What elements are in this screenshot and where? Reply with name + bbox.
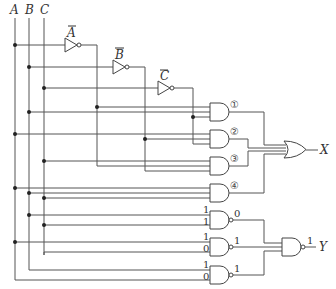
nand-1-input-2: 1 — [203, 216, 209, 227]
and-gate-3 — [210, 157, 229, 175]
and-gate-1-marker: ① — [230, 99, 239, 110]
nand-gate-2 — [210, 238, 229, 256]
not-gate-b: B — [29, 48, 145, 161]
and-gate-1 — [210, 103, 229, 121]
and-gate-4-marker: ④ — [230, 180, 239, 191]
not-b-label: B — [114, 48, 124, 62]
input-label-b: B — [24, 3, 34, 17]
and-gate-4 — [210, 184, 229, 202]
logic-circuit-diagram: A B C A B C — [0, 0, 336, 289]
input-label-c: C — [40, 3, 49, 17]
nand-1-output: 0 — [234, 208, 240, 219]
nand-3-input-2: 0 — [203, 271, 209, 282]
nand-3-output: 1 — [234, 263, 240, 274]
not-gate-a: A — [15, 26, 97, 155]
input-label-a: A — [9, 3, 19, 17]
nand-1-input-1: 1 — [203, 204, 209, 215]
and-gate-3-marker: ③ — [230, 153, 239, 164]
or-gate — [284, 141, 306, 158]
nand-gate-3 — [210, 266, 229, 284]
and-gate-2-marker: ② — [230, 126, 239, 137]
not-gate-c: C — [44, 69, 193, 128]
output-x-label: X — [319, 143, 329, 157]
not-a-label: A — [66, 26, 76, 40]
nand-3-input-1: 1 — [203, 259, 209, 270]
final-nand-output-value: 1 — [307, 235, 313, 246]
and-gate-2 — [210, 130, 229, 148]
nand-gate-1 — [210, 211, 229, 229]
nand-2-input-1: 1 — [203, 231, 209, 242]
nand-2-input-2: 0 — [203, 243, 209, 254]
nand-2-output: 1 — [234, 235, 240, 246]
output-y-label: Y — [319, 240, 328, 254]
not-c-label: C — [160, 69, 169, 83]
final-nand-gate — [282, 238, 301, 256]
